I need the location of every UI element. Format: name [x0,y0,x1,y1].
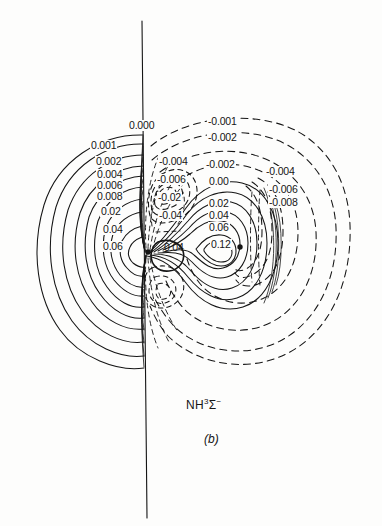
contour-label-neg0.002-top: -0.002 [207,132,238,143]
contour-label-0.12: 0.12 [210,239,232,250]
contour-label-neg0.04: -0.04 [158,210,183,221]
contour-label-neg0.001: -0.001 [207,116,238,127]
contour-label-neg0.004-right: -0.004 [265,166,296,177]
species-label: NH3Σ− [186,397,221,412]
contour-figure: 0.000 0.001 0.002 0.004 0.006 0.008 0.02… [0,0,382,526]
contour-label-0.02-right: 0.02 [208,198,230,209]
contour-label-0.04-left: 0.04 [102,224,124,235]
contour-label-0.008: 0.008 [96,191,123,202]
contour-label-0.04-right: 0.04 [208,210,230,221]
contour-label-0.002: 0.002 [95,156,122,167]
contour-label-neg0.008-right: -0.008 [268,197,299,208]
nucleus-marker-n [145,249,150,254]
contour-label-0.000: 0.000 [128,120,155,131]
contour-label-0.04-inner: 0.04 [163,242,185,253]
left-lobe-positive-contours [37,135,144,369]
contour-label-neg0.006-center: -0.006 [156,174,187,185]
contour-label-0.02-left: 0.02 [100,206,122,217]
panel-letter: (b) [204,432,219,446]
contour-label-0.06-right: 0.06 [208,222,230,233]
nucleus-marker-h [237,244,242,249]
contour-label-neg0.002-center: -0.002 [205,159,236,170]
vertical-axis-line [142,21,147,518]
contour-label-0.00: 0.00 [208,176,230,187]
contour-label-neg0.02: -0.02 [157,192,182,203]
contour-label-neg0.004-center: -0.004 [158,156,189,167]
species-name: NH [186,398,204,412]
contour-plot-canvas [0,0,382,526]
species-parity-sign: − [216,397,221,406]
contour-label-0.001: 0.001 [90,140,117,151]
contour-label-0.06-left: 0.06 [102,241,124,252]
contour-label-neg0.006-right: -0.006 [268,184,299,195]
